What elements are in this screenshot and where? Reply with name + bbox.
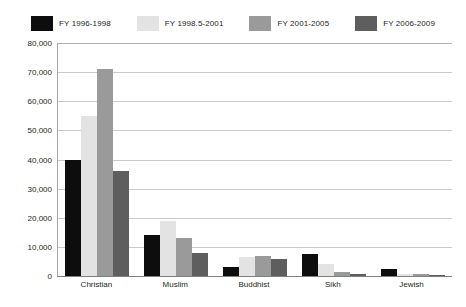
bar[interactable] [97, 69, 113, 276]
bar[interactable] [223, 267, 239, 276]
y-axis-tick-label: 40,000 [4, 155, 52, 164]
bar[interactable] [318, 264, 334, 276]
bar[interactable] [81, 116, 97, 276]
bar[interactable] [350, 274, 366, 276]
bar-group [65, 43, 129, 276]
y-axis-tick-label: 30,000 [4, 184, 52, 193]
legend-entry[interactable]: FY 2001-2005 [249, 16, 329, 31]
bar[interactable] [160, 221, 176, 276]
x-axis-tick-label: Buddhist [238, 280, 269, 289]
legend-entry[interactable]: FY 2006-2009 [355, 16, 435, 31]
x-axis-tick-label: Muslim [163, 280, 188, 289]
bar[interactable] [176, 238, 192, 276]
y-axis-labels: 010,00020,00030,00040,00050,00060,00070,… [0, 43, 52, 276]
legend-swatch-icon [31, 16, 53, 31]
bar[interactable] [271, 259, 287, 276]
legend-label: FY 1998.5-2001 [165, 19, 224, 28]
chart-legend: FY 1996-1998FY 1998.5-2001FY 2001-2005FY… [0, 13, 466, 33]
bar-chart: FY 1996-1998FY 1998.5-2001FY 2001-2005FY… [0, 0, 466, 307]
bar[interactable] [302, 254, 318, 276]
bar[interactable] [144, 235, 160, 276]
legend-swatch-icon [137, 16, 159, 31]
legend-label: FY 2001-2005 [277, 19, 329, 28]
y-axis-tick-label: 20,000 [4, 213, 52, 222]
bar-group [302, 43, 366, 276]
bar[interactable] [381, 269, 397, 276]
bar[interactable] [65, 160, 81, 277]
y-axis-tick-label: 0 [4, 272, 52, 281]
bar[interactable] [429, 275, 445, 276]
bar[interactable] [239, 257, 255, 276]
legend-entry[interactable]: FY 1996-1998 [31, 16, 111, 31]
legend-label: FY 1996-1998 [59, 19, 111, 28]
legend-label: FY 2006-2009 [383, 19, 435, 28]
bar-group [144, 43, 208, 276]
y-axis-tick-label: 60,000 [4, 97, 52, 106]
x-axis-tick-label: Sikh [325, 280, 341, 289]
y-axis-tick-label: 80,000 [4, 39, 52, 48]
bar[interactable] [192, 253, 208, 276]
bar[interactable] [413, 274, 429, 276]
x-axis-tick-label: Christian [81, 280, 113, 289]
bar[interactable] [397, 274, 413, 276]
legend-swatch-icon [249, 16, 271, 31]
legend-entry[interactable]: FY 1998.5-2001 [137, 16, 224, 31]
bar[interactable] [113, 171, 129, 276]
x-axis-labels: ChristianMuslimBuddhistSikhJewish [57, 280, 451, 298]
bar[interactable] [255, 256, 271, 276]
bar-group [223, 43, 287, 276]
y-axis-tick-label: 10,000 [4, 242, 52, 251]
y-axis-tick-label: 50,000 [4, 126, 52, 135]
bar[interactable] [334, 272, 350, 276]
x-axis-tick-label: Jewish [399, 280, 423, 289]
y-axis-tick-label: 70,000 [4, 68, 52, 77]
bar-group [381, 43, 445, 276]
legend-swatch-icon [355, 16, 377, 31]
plot-area [57, 43, 452, 277]
